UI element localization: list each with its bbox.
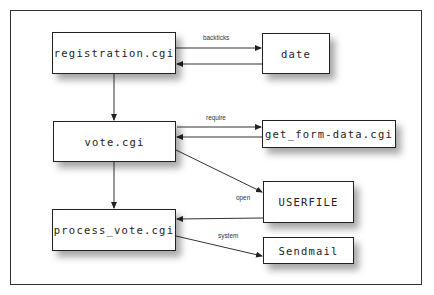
edge-vote-to-userfile	[176, 150, 262, 192]
node-date: date	[262, 33, 330, 74]
edge-label-backticks: backticks	[203, 33, 229, 42]
edge-userfile-to-process-vote	[177, 218, 263, 219]
edge-label-system: system	[218, 231, 238, 240]
node-label: registration.cgi	[54, 47, 174, 59]
node-process-vote-cgi: process_vote.cgi	[52, 209, 176, 251]
edge-label-open: open	[236, 193, 250, 202]
node-sendmail: Sendmail	[263, 237, 354, 264]
node-label: USERFILE	[278, 196, 338, 208]
edge-label-require: require	[206, 113, 226, 122]
node-label: get_form-data.cgi	[265, 128, 393, 140]
node-get-form-data-cgi: get_form-data.cgi	[262, 120, 396, 148]
node-label: Sendmail	[278, 245, 338, 257]
node-vote-cgi: vote.cgi	[53, 121, 176, 162]
node-label: process_vote.cgi	[54, 224, 174, 236]
node-label: date	[281, 48, 311, 60]
node-label: vote.cgi	[84, 136, 144, 148]
node-registration-cgi: registration.cgi	[52, 32, 176, 74]
node-userfile: USERFILE	[263, 181, 354, 223]
